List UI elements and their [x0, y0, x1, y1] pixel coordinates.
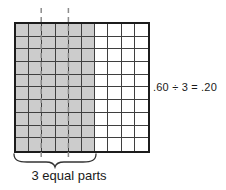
grid-cell — [95, 75, 108, 88]
grid-cell — [82, 87, 95, 100]
grid-cell — [135, 75, 148, 88]
grid-cell — [69, 138, 82, 151]
grid-cell — [122, 138, 135, 151]
grid-cell — [108, 24, 121, 37]
grid-cell — [122, 113, 135, 126]
grid-cell — [82, 113, 95, 126]
grid-cell — [16, 37, 29, 50]
grid-cell — [69, 87, 82, 100]
grid-cell — [56, 113, 69, 126]
caption-label: 3 equal parts — [14, 168, 124, 183]
grid-cell — [42, 126, 55, 139]
grid-cell — [122, 49, 135, 62]
grid-cell — [108, 75, 121, 88]
grid-cell — [108, 49, 121, 62]
grid-cell — [56, 49, 69, 62]
grid-cell — [122, 37, 135, 50]
grid-cell — [16, 100, 29, 113]
grid-cell — [135, 24, 148, 37]
grid-cell — [135, 37, 148, 50]
grid-cell — [42, 24, 55, 37]
grid-cell — [135, 138, 148, 151]
grid-cell — [56, 75, 69, 88]
grid-cell — [16, 113, 29, 126]
grid-cell — [29, 37, 42, 50]
grid-cell — [69, 75, 82, 88]
grid-cell — [69, 126, 82, 139]
grid-cell — [56, 24, 69, 37]
grid-cell — [29, 49, 42, 62]
grid-cell — [69, 113, 82, 126]
grid-cell — [42, 75, 55, 88]
grid-cell — [122, 100, 135, 113]
grid-cell — [16, 62, 29, 75]
grid-cell — [122, 62, 135, 75]
grid-cell — [82, 138, 95, 151]
grid-cell — [82, 24, 95, 37]
grid-cell — [29, 126, 42, 139]
grid-cell — [56, 62, 69, 75]
grid-cell — [16, 138, 29, 151]
grid-cell — [29, 138, 42, 151]
grid-cell — [82, 100, 95, 113]
grid-cell — [135, 49, 148, 62]
grid-cell — [42, 138, 55, 151]
grid-cell — [69, 62, 82, 75]
grid-cell — [95, 62, 108, 75]
grid-cell — [16, 49, 29, 62]
grid-cell — [69, 49, 82, 62]
grid-cell — [16, 75, 29, 88]
grid-cell — [56, 37, 69, 50]
grid-cell — [95, 113, 108, 126]
grid-cell — [82, 62, 95, 75]
grid-cell — [122, 24, 135, 37]
grid-cell — [108, 138, 121, 151]
grid-cell — [16, 24, 29, 37]
brace — [14, 154, 96, 167]
grid-cell — [42, 113, 55, 126]
grid-cell — [108, 126, 121, 139]
grid-cell — [69, 37, 82, 50]
grid-cell — [56, 138, 69, 151]
grid-cell — [29, 87, 42, 100]
grid-cell — [95, 49, 108, 62]
grid-cell — [42, 62, 55, 75]
grid-cell — [135, 87, 148, 100]
grid-cell — [82, 126, 95, 139]
grid-cell — [135, 126, 148, 139]
grid-cell — [108, 87, 121, 100]
hundredths-grid — [14, 22, 150, 153]
diagram-canvas: .60 ÷ 3 = .20 3 equal parts — [0, 0, 226, 190]
grid-cell — [42, 87, 55, 100]
grid-cell — [69, 24, 82, 37]
equation-label: .60 ÷ 3 = .20 — [153, 81, 226, 93]
grid-cell — [42, 100, 55, 113]
grid-cell — [122, 75, 135, 88]
grid-cell — [108, 62, 121, 75]
grid-cell — [56, 126, 69, 139]
grid-cell — [56, 87, 69, 100]
grid-cell — [82, 37, 95, 50]
grid-cell — [122, 126, 135, 139]
grid-cell — [122, 87, 135, 100]
grid-cell — [95, 87, 108, 100]
grid-cell — [95, 24, 108, 37]
grid-cell — [135, 113, 148, 126]
grid-cell — [82, 49, 95, 62]
grid-cell — [95, 138, 108, 151]
grid-cell — [29, 62, 42, 75]
grid-cell — [29, 100, 42, 113]
grid-cell — [95, 126, 108, 139]
grid-cell — [29, 113, 42, 126]
grid-cell — [135, 100, 148, 113]
grid-cell — [42, 37, 55, 50]
grid-cell — [69, 100, 82, 113]
grid-cell — [108, 37, 121, 50]
grid-cell — [42, 49, 55, 62]
grid-cell — [95, 100, 108, 113]
grid-cell — [29, 75, 42, 88]
grid-cell — [135, 62, 148, 75]
grid-cell — [108, 100, 121, 113]
grid-cell — [16, 126, 29, 139]
grid-cell — [82, 75, 95, 88]
